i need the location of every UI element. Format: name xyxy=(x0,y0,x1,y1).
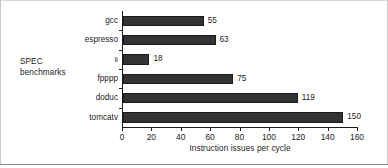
bar-chart-figure: SPEC benchmarks gcc55espresso63li18fpppp… xyxy=(0,0,388,168)
bar xyxy=(123,93,298,104)
x-axis-tick xyxy=(210,127,211,131)
plot-area: gcc55espresso63li18fpppp75doduc119tomcat… xyxy=(122,11,358,127)
y-axis-tick xyxy=(119,88,122,89)
x-axis-tick-label: 160 xyxy=(350,132,364,143)
y-axis-tick xyxy=(119,50,122,51)
y-axis-tick xyxy=(119,108,122,109)
bar-value-label: 150 xyxy=(347,111,361,122)
x-axis-tick-label: 60 xyxy=(205,132,214,143)
bar-row: li18 xyxy=(122,50,358,69)
x-axis-tick xyxy=(181,127,182,131)
y-axis-title-line-1: SPEC xyxy=(20,57,100,68)
bar-value-label: 18 xyxy=(153,53,162,64)
bar xyxy=(123,16,204,27)
bar-value-label: 75 xyxy=(237,73,246,84)
x-axis-tick xyxy=(357,127,358,131)
x-axis-tick xyxy=(151,127,152,131)
y-axis-tick xyxy=(119,69,122,70)
y-axis-title: SPEC benchmarks xyxy=(20,57,100,78)
bar-value-label: 63 xyxy=(220,34,229,45)
y-axis-tick xyxy=(119,30,122,31)
bar-row: gcc55 xyxy=(122,11,358,30)
x-axis-tick xyxy=(328,127,329,131)
figure-bottom-rule xyxy=(0,164,388,165)
figure-left-rule xyxy=(0,0,1,165)
x-axis-tick xyxy=(122,127,123,131)
bar-category-label: fpppp xyxy=(98,73,119,84)
bar-value-label: 55 xyxy=(208,15,217,26)
x-axis-tick-label: 100 xyxy=(262,132,276,143)
bar-row: espresso63 xyxy=(122,30,358,49)
x-axis-tick xyxy=(269,127,270,131)
bar-category-label: gcc xyxy=(105,15,118,26)
y-axis-title-line-2: benchmarks xyxy=(20,68,100,79)
x-axis-title: Instruction issues per cycle xyxy=(122,144,358,153)
x-axis-tick xyxy=(298,127,299,131)
bar xyxy=(123,74,233,85)
x-axis-tick-label: 80 xyxy=(235,132,244,143)
bar-row: tomcatv150 xyxy=(122,108,358,127)
x-axis-tick-label: 20 xyxy=(147,132,156,143)
bar-category-label: li xyxy=(115,54,118,65)
bar-value-label: 119 xyxy=(302,92,315,103)
bar-row: doduc119 xyxy=(122,88,358,107)
bar xyxy=(123,35,216,46)
bar-category-label: tomcatv xyxy=(89,112,118,123)
bar-row: fpppp75 xyxy=(122,69,358,88)
bar-category-label: espresso xyxy=(85,34,118,45)
x-axis-tick-label: 40 xyxy=(176,132,185,143)
x-axis-tick-label: 0 xyxy=(120,132,125,143)
bar-category-label: doduc xyxy=(96,92,118,103)
figure-top-rule xyxy=(0,0,388,1)
x-axis-tick-label: 120 xyxy=(291,132,305,143)
x-axis-tick-label: 140 xyxy=(321,132,335,143)
bar xyxy=(123,112,343,123)
x-axis-tick xyxy=(240,127,241,131)
bar xyxy=(123,54,149,65)
